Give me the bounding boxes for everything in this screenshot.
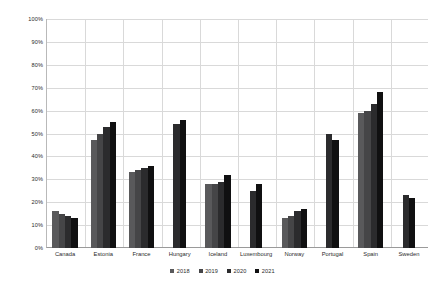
- x-axis-tick-label: Estonia: [84, 250, 122, 258]
- x-axis-tick-label: France: [122, 250, 160, 258]
- bar-luxembourg-2021: [256, 184, 262, 248]
- y-axis-tick-label: 90%: [3, 39, 43, 45]
- bar-group: [161, 19, 199, 248]
- y-axis-tick-label: 30%: [3, 176, 43, 182]
- legend-label: 2019: [205, 268, 218, 274]
- legend-label: 2021: [262, 268, 275, 274]
- x-axis-tick-label: Sweden: [390, 250, 428, 258]
- bar-estonia-2021: [110, 122, 116, 248]
- legend-swatch-icon: [255, 269, 259, 273]
- x-axis-tick-label: Luxembourg: [237, 250, 275, 258]
- x-axis-tick-label: Canada: [46, 250, 84, 258]
- bar-group: [46, 19, 84, 248]
- legend-swatch-icon: [227, 269, 231, 273]
- y-axis-tick-label: 40%: [3, 153, 43, 159]
- bar-spain-2021: [377, 92, 383, 248]
- bar-group: [352, 19, 390, 248]
- bar-group: [122, 19, 160, 248]
- bar-sweden-2021: [409, 198, 415, 248]
- x-axis: CanadaEstoniaFranceHungaryIcelandLuxembo…: [46, 250, 428, 264]
- bars-layer: [46, 19, 428, 248]
- y-axis-tick-label: 10%: [3, 222, 43, 228]
- y-axis-tick-label: 100%: [3, 16, 43, 22]
- x-axis-tick-label: Portugal: [313, 250, 351, 258]
- bar-group: [390, 19, 428, 248]
- bar-group: [313, 19, 351, 248]
- legend-swatch-icon: [170, 269, 174, 273]
- bar-france-2021: [148, 166, 154, 248]
- bar-group: [237, 19, 275, 248]
- legend-item-2018[interactable]: 2018: [170, 268, 189, 274]
- legend-swatch-icon: [199, 269, 203, 273]
- bar-chart: 0%10%20%30%40%50%60%70%80%90%100% Canada…: [0, 0, 445, 289]
- bar-hungary-2021: [180, 120, 186, 248]
- x-axis-tick-label: Spain: [352, 250, 390, 258]
- y-axis-tick-label: 70%: [3, 85, 43, 91]
- bar-group: [275, 19, 313, 248]
- legend-label: 2018: [177, 268, 190, 274]
- x-axis-tick-label: Iceland: [199, 250, 237, 258]
- y-axis-tick-label: 0%: [3, 245, 43, 251]
- y-axis-tick-label: 60%: [3, 108, 43, 114]
- legend-item-2019[interactable]: 2019: [199, 268, 218, 274]
- y-axis-tick-label: 20%: [3, 199, 43, 205]
- bar-iceland-2021: [224, 175, 230, 248]
- legend-label: 2020: [234, 268, 247, 274]
- chart-legend: 2018201920202021: [0, 268, 445, 274]
- bar-canada-2021: [71, 218, 77, 248]
- y-axis-tick-label: 50%: [3, 131, 43, 137]
- y-axis: 0%10%20%30%40%50%60%70%80%90%100%: [0, 19, 43, 248]
- y-axis-tick-label: 80%: [3, 62, 43, 68]
- bar-norway-2021: [301, 209, 307, 248]
- bar-portugal-2021: [332, 140, 338, 248]
- legend-item-2020[interactable]: 2020: [227, 268, 246, 274]
- legend-item-2021[interactable]: 2021: [255, 268, 274, 274]
- bar-group: [84, 19, 122, 248]
- x-axis-tick-label: Hungary: [161, 250, 199, 258]
- bar-group: [199, 19, 237, 248]
- x-axis-tick-label: Norway: [275, 250, 313, 258]
